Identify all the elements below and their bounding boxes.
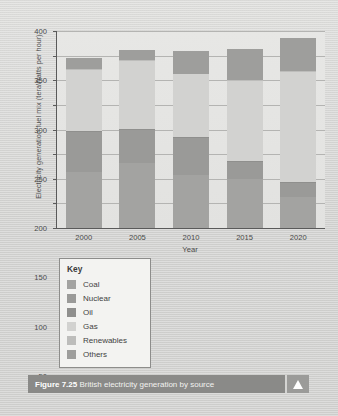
legend-item-label: Gas	[83, 322, 98, 331]
bar-column[interactable]: 2010	[173, 31, 209, 228]
legend-swatch	[67, 280, 76, 289]
y-axis-tick-label: 200	[34, 224, 47, 233]
bar-segment-gas	[227, 81, 263, 161]
legend-swatch	[67, 336, 76, 345]
x-axis-tick-label: 2015	[236, 233, 253, 242]
y-axis-tick-label: 350	[34, 76, 47, 85]
legend-title: Key	[67, 264, 144, 274]
legend-item[interactable]: Renewables	[67, 333, 144, 347]
x-axis-tick-label: 2020	[290, 233, 307, 242]
chart-container: Electricity generation fuel mix (teraWat…	[0, 0, 338, 258]
bar-group: 20002005201020152020	[57, 31, 325, 228]
bar-segment-nuclear	[173, 138, 209, 174]
legend-item-label: Others	[83, 350, 107, 359]
bar-segment-others	[227, 49, 263, 81]
x-axis-tick-label: 2000	[75, 233, 92, 242]
legend-items: CoalNuclearOilGasRenewablesOthers	[67, 277, 144, 361]
bar-segment-nuclear	[227, 162, 263, 179]
bar-segment-others	[173, 51, 209, 74]
bar-segment-gas	[119, 61, 155, 128]
y-axis-tick-label: 100	[34, 322, 47, 331]
bar-segment-others	[66, 58, 102, 69]
legend-item[interactable]: Gas	[67, 319, 144, 333]
legend-swatch	[67, 294, 76, 303]
legend-swatch	[67, 322, 76, 331]
figure-number: Figure 7.25	[35, 380, 77, 389]
legend-item[interactable]: Coal	[67, 277, 144, 291]
bar-column[interactable]: 2015	[227, 31, 263, 228]
triangle-up-icon	[293, 380, 303, 389]
figure-page: Electricity generation fuel mix (teraWat…	[0, 0, 338, 416]
legend-item[interactable]: Others	[67, 347, 144, 361]
figure-caption-text: Figure 7.25 British electricity generati…	[28, 380, 285, 389]
y-axis-tick-label: 300	[34, 125, 47, 134]
bar-column[interactable]: 2000	[66, 31, 102, 228]
y-axis-label: Electricity generation fuel mix (teraWat…	[34, 17, 43, 217]
legend-item-label: Nuclear	[83, 294, 111, 303]
bar-segment-gas	[173, 74, 209, 137]
bar-column[interactable]: 2005	[119, 31, 155, 228]
legend-swatch	[67, 350, 76, 359]
bar-segment-coal	[66, 172, 102, 228]
x-axis-tick-label: 2005	[129, 233, 146, 242]
legend-item[interactable]: Nuclear	[67, 291, 144, 305]
bar-column[interactable]: 2020	[280, 31, 316, 228]
x-axis-tick-label: 2010	[183, 233, 200, 242]
y-axis-tick-label: 150	[34, 273, 47, 282]
legend-swatch	[67, 308, 76, 317]
bar-segment-coal	[280, 197, 316, 228]
legend-item-label: Renewables	[83, 336, 127, 345]
legend-item[interactable]: Oil	[67, 305, 144, 319]
bar-segment-others	[280, 38, 316, 71]
figure-expand-button[interactable]	[285, 375, 309, 393]
bar-segment-nuclear	[280, 183, 316, 198]
bar-segment-coal	[119, 163, 155, 228]
bar-segment-nuclear	[66, 132, 102, 172]
bar-segment-coal	[173, 175, 209, 228]
legend-item-label: Oil	[83, 308, 93, 317]
y-axis-tick-label: 400	[34, 27, 47, 36]
legend-box: Key CoalNuclearOilGasRenewablesOthers	[59, 258, 151, 368]
y-axis-tick-label: 250	[34, 174, 47, 183]
bar-segment-gas	[66, 70, 102, 130]
bar-segment-others	[119, 50, 155, 59]
figure-caption-bar: Figure 7.25 British electricity generati…	[28, 375, 309, 393]
bar-segment-coal	[227, 179, 263, 228]
y-axis-tick: 0	[53, 228, 57, 229]
x-axis-label: Year	[56, 245, 324, 254]
legend-item-label: Coal	[83, 280, 99, 289]
bar-segment-gas	[280, 72, 316, 182]
figure-caption-label: British electricity generation by source	[79, 380, 214, 389]
plot-area: 050100150200250300350400 200020052010201…	[56, 31, 325, 229]
bar-segment-nuclear	[119, 130, 155, 164]
